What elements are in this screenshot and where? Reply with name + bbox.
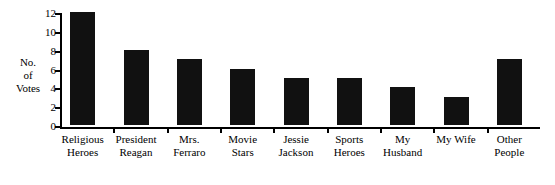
y-axis-tick	[55, 32, 62, 34]
y-axis-tick	[55, 13, 62, 15]
plot-area: 121086420	[60, 14, 540, 127]
x-axis-label: ReligiousHeroes	[56, 133, 109, 159]
bar	[390, 87, 415, 125]
x-axis-label: MyHusband	[376, 133, 429, 159]
x-axis-label-line-1: Other	[497, 133, 522, 145]
x-axis-label-line-1: Religious	[62, 133, 104, 145]
x-axis-label: Mrs.Ferraro	[163, 133, 216, 159]
x-axis-label-line-2: Heroes	[323, 146, 376, 159]
x-axis-label-line-1: Movie	[228, 133, 257, 145]
bar	[70, 12, 95, 125]
x-axis-label: My Wife	[429, 133, 482, 146]
bar	[284, 78, 309, 125]
x-axis-label-line-2: Ferraro	[163, 146, 216, 159]
y-axis-tick-label: 12	[40, 8, 56, 19]
y-axis-tick	[55, 88, 62, 90]
y-axis-tick-labels: 121086420	[36, 14, 56, 128]
bar	[230, 69, 255, 126]
bar	[124, 50, 149, 125]
y-axis-tick-label: 10	[40, 27, 56, 38]
y-axis-tick	[55, 107, 62, 109]
x-axis-label-line-2: Reagan	[109, 146, 162, 159]
bar	[337, 78, 362, 125]
x-axis-label-line-1: Sports	[335, 133, 363, 145]
x-axis-label: JessieJackson	[269, 133, 322, 159]
x-axis-label-line-2: People	[483, 146, 536, 159]
bar	[497, 59, 522, 125]
x-axis-label-line-2: Jackson	[269, 146, 322, 159]
bar-chart: No. of Votes 121086420 ReligiousHeroesPr…	[0, 0, 555, 185]
x-axis-label-line-1: Jessie	[283, 133, 309, 145]
y-axis-tick-label: 2	[40, 102, 56, 113]
bar	[177, 59, 202, 125]
x-axis-label: MovieStars	[216, 133, 269, 159]
y-axis-tick	[55, 126, 62, 128]
x-axis-line	[60, 127, 540, 129]
y-axis-tick	[55, 51, 62, 53]
x-axis-label-line-2: Stars	[216, 146, 269, 159]
y-axis-tick-label: 4	[40, 83, 56, 94]
y-axis-tick-label: 8	[40, 46, 56, 57]
y-axis-tick-label: 0	[40, 121, 56, 132]
x-axis-label-line-2: Husband	[376, 146, 429, 159]
x-axis-label: OtherPeople	[483, 133, 536, 159]
x-axis-label: PresidentReagan	[109, 133, 162, 159]
x-axis-label-line-2: Heroes	[56, 146, 109, 159]
bar	[444, 97, 469, 125]
x-axis-label-line-1: My Wife	[436, 133, 475, 145]
y-axis-tick	[55, 70, 62, 72]
y-axis-tick-label: 6	[40, 65, 56, 76]
x-axis-label-line-1: My	[395, 133, 410, 145]
x-axis-label-line-1: Mrs.	[179, 133, 199, 145]
x-axis-label: SportsHeroes	[323, 133, 376, 159]
x-axis-label-line-1: President	[116, 133, 157, 145]
